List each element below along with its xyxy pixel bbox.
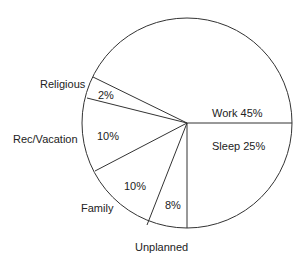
label-unplanned-pct: 8% — [165, 199, 181, 211]
label-rec: Rec/Vacation — [13, 133, 78, 145]
label-sleep: Sleep 25% — [212, 140, 265, 152]
pie-chart: Work 45% Sleep 25% 8% Unplanned 10% Fami… — [0, 0, 297, 260]
label-family-pct: 10% — [124, 180, 146, 192]
label-family: Family — [81, 202, 114, 214]
label-work: Work 45% — [212, 107, 263, 119]
label-unplanned: Unplanned — [135, 241, 188, 253]
label-religious: Religious — [40, 78, 86, 90]
label-religious-pct: 2% — [98, 89, 114, 101]
label-rec-pct: 10% — [97, 130, 119, 142]
